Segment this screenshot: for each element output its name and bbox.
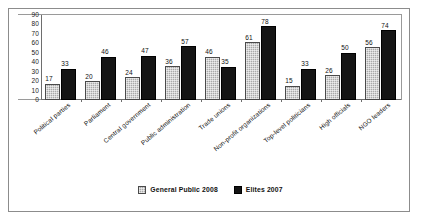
grouped-bar-chart: 9080706050403020100 17332046244736574635… — [0, 0, 421, 221]
chart-legend: General Public 2008Elites 2007 — [0, 186, 421, 194]
legend-item[interactable]: Elites 2007 — [234, 186, 283, 194]
bar-value-label: 46 — [94, 48, 116, 55]
bar-el-2 — [141, 56, 156, 100]
bar-value-label: 24 — [118, 69, 140, 76]
category-label-text: Trade unions — [197, 101, 231, 131]
bar-value-label: 26 — [318, 67, 340, 74]
y-tick-label: 10 — [19, 88, 39, 95]
bar-el-8 — [381, 30, 396, 100]
bar-series-container: 173320462447365746356178153326505674 — [41, 15, 401, 100]
x-axis-tick — [241, 99, 242, 102]
bar-value-label: 50 — [334, 44, 356, 51]
black-swatch — [234, 186, 242, 194]
y-tick-label: 80 — [19, 21, 39, 28]
bar-value-label: 17 — [38, 75, 60, 82]
x-axis-tick — [361, 99, 362, 102]
chart-screenshot: 9080706050403020100 17332046244736574635… — [0, 0, 421, 221]
bar-value-label: 78 — [254, 18, 276, 25]
y-tick-label: 20 — [19, 78, 39, 85]
bar-value-label: 33 — [54, 60, 76, 67]
bar-gp-0 — [45, 84, 60, 100]
legend-label: Elites 2007 — [246, 186, 283, 194]
y-tick-label: 40 — [19, 59, 39, 66]
x-axis-category-labels: Political partiesParliamentCentral gover… — [41, 101, 411, 179]
legend-item[interactable]: General Public 2008 — [138, 186, 217, 194]
y-tick-label: 30 — [19, 69, 39, 76]
category-label-text: Parliament — [82, 101, 111, 127]
bar-el-5 — [261, 26, 276, 100]
category-label-text: NGO leaders — [357, 101, 391, 131]
category-label-text: High officials — [318, 101, 352, 131]
bar-group: 1733 — [41, 15, 81, 100]
gray-pattern-swatch — [138, 186, 146, 194]
y-tick-label: 0 — [19, 97, 39, 104]
y-tick-label: 90 — [19, 12, 39, 19]
bar-value-label: 46 — [198, 48, 220, 55]
x-axis-tick — [161, 99, 162, 102]
x-axis-tick — [81, 99, 82, 102]
legend-label: General Public 2008 — [150, 186, 217, 194]
bar-value-label: 61 — [238, 34, 260, 41]
bar-value-label: 56 — [358, 39, 380, 46]
x-axis-tick — [281, 99, 282, 102]
bar-value-label: 36 — [158, 58, 180, 65]
x-axis-tick — [121, 99, 122, 102]
bar-value-label: 57 — [174, 38, 196, 45]
bar-value-label: 74 — [374, 22, 396, 29]
bar-value-label: 47 — [134, 47, 156, 54]
x-axis-tick — [201, 99, 202, 102]
y-tick-label: 70 — [19, 31, 39, 38]
y-tick-label: 50 — [19, 50, 39, 57]
y-tick-label: 60 — [19, 40, 39, 47]
x-axis-tick — [321, 99, 322, 102]
